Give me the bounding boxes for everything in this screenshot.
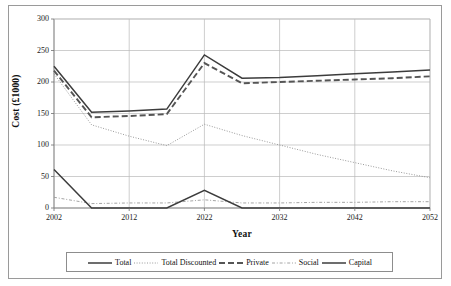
x-tick-label: 2002 [34, 213, 74, 222]
y-axis-title: Cost (£1000) [11, 57, 21, 145]
x-axis-title: Year [54, 229, 430, 239]
legend-item-capital[interactable]: Capital [321, 258, 372, 267]
y-tick-label: 250 [25, 46, 49, 55]
y-tick-label: 300 [25, 14, 49, 23]
legend-item-private[interactable]: Private [218, 258, 269, 267]
x-tick-label: 2042 [335, 213, 375, 222]
legend-label: Private [246, 258, 269, 267]
y-tick-label: 150 [25, 109, 49, 118]
legend-label: Social [299, 258, 319, 267]
x-tick-label: 2012 [109, 213, 149, 222]
y-tick-label: 50 [25, 172, 49, 181]
legend-label: Capital [349, 258, 372, 267]
legend-item-total[interactable]: Total [87, 258, 131, 267]
y-tick-label: 200 [25, 77, 49, 86]
y-tick-label: 100 [25, 140, 49, 149]
line-chart-plot [0, 0, 451, 286]
dashdot-line-icon [271, 258, 297, 267]
solid-line-icon [321, 258, 347, 267]
solid-line-icon [87, 258, 113, 267]
dashed-line-icon [218, 258, 244, 267]
legend-label: Total Discounted [161, 258, 216, 267]
chart-legend: TotalTotal DiscountedPrivateSocialCapita… [66, 252, 393, 272]
legend-label: Total [115, 258, 131, 267]
x-tick-label: 2022 [184, 213, 224, 222]
legend-item-total-discounted[interactable]: Total Discounted [133, 258, 216, 267]
dotted-line-icon [133, 258, 159, 267]
chart-figure: Cost (£1000) Year 300250200150100500 200… [0, 0, 451, 286]
x-tick-label: 2052 [410, 213, 450, 222]
x-tick-label: 2032 [260, 213, 300, 222]
legend-item-social[interactable]: Social [271, 258, 319, 267]
y-tick-label: 0 [25, 203, 49, 212]
